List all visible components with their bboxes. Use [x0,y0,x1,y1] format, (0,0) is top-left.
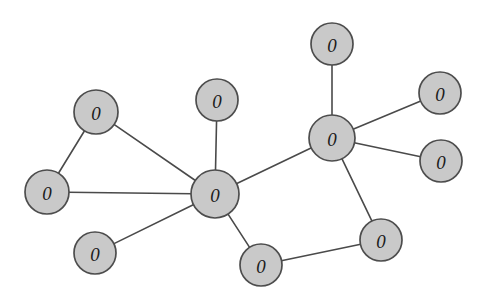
node-upper-right[interactable]: 0 [419,72,461,114]
edge-center-hub-to-right-hub [235,147,312,184]
edge-right-hub-to-bottom-right [341,157,372,222]
edge-center-hub-to-bottom-left [112,204,194,244]
node-lower-right-label: 0 [436,152,446,173]
node-bottom-left-label: 0 [90,244,100,265]
edge-right-hub-to-upper-right [352,101,422,130]
edge-right-hub-to-lower-right [353,142,422,157]
node-right-hub-label: 0 [327,129,337,150]
node-top-label: 0 [327,35,337,56]
graph-svg: 00000000000 [0,0,488,301]
node-bottom-left[interactable]: 0 [74,232,116,274]
node-left[interactable]: 0 [25,170,69,214]
edge-bottom-center-to-bottom-right [280,244,362,261]
node-upper-middle-label: 0 [212,91,222,112]
node-top[interactable]: 0 [311,23,353,65]
graph-diagram-canvas: 00000000000 [0,0,488,301]
node-bottom-right[interactable]: 0 [360,219,402,261]
node-layer: 00000000000 [25,23,462,286]
node-lower-right[interactable]: 0 [420,140,462,182]
node-bottom-right-label: 0 [376,231,386,252]
node-left-label: 0 [42,183,52,204]
edge-center-hub-to-bottom-center [227,213,250,249]
node-center-hub[interactable]: 0 [191,170,239,218]
edge-top-left-to-left [58,129,86,174]
node-center-hub-label: 0 [210,185,220,206]
node-bottom-center[interactable]: 0 [240,244,282,286]
node-upper-middle[interactable]: 0 [196,79,238,121]
edge-upper-middle-to-center-hub [215,119,216,171]
node-right-hub[interactable]: 0 [309,115,355,161]
node-top-left[interactable]: 0 [74,90,118,134]
edge-top-left-to-center-hub [113,124,197,182]
node-top-left-label: 0 [91,103,101,124]
node-upper-right-label: 0 [435,84,445,105]
node-bottom-center-label: 0 [256,256,266,277]
edge-left-to-center-hub [67,192,192,193]
